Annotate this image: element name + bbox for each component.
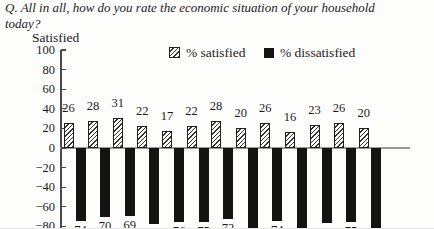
dissatisfied-bar xyxy=(100,148,110,217)
dissatisfied-value-label: 76 xyxy=(166,224,192,228)
dissatisfied-bar xyxy=(346,148,356,222)
chart-question-title: Q. All in all, how do you rate the econo… xyxy=(5,0,425,31)
satisfied-value-label: 22 xyxy=(179,104,205,118)
dissatisfied-bar xyxy=(248,148,258,228)
satisfied-bar xyxy=(88,121,98,148)
dissatisfied-value-label: 77 xyxy=(314,225,340,228)
satisfied-value-label: 28 xyxy=(80,99,106,113)
dissatisfied-bar xyxy=(297,148,307,228)
legend-dissatisfied-label: % dissatisfied xyxy=(280,45,355,61)
dissatisfied-bar xyxy=(76,148,86,221)
y-tick-label: 0 xyxy=(17,141,55,155)
dissatisfied-bar xyxy=(322,148,332,223)
satisfied-value-label: 26 xyxy=(326,101,352,115)
satisfied-bar xyxy=(187,126,197,148)
dissatisfied-value-label: 74 xyxy=(264,223,290,228)
satisfied-swatch-icon xyxy=(169,47,180,58)
legend-item-satisfied: % satisfied xyxy=(169,45,246,60)
dissatisfied-value-label: 70 xyxy=(92,219,118,228)
dissatisfied-value-label: 74 xyxy=(68,223,94,228)
satisfied-bar xyxy=(162,131,172,148)
satisfied-value-label: 31 xyxy=(105,96,131,110)
y-axis-tick xyxy=(61,167,66,168)
dissatisfied-value-label: 78 xyxy=(141,226,167,228)
y-tick-label: −60 xyxy=(17,200,55,214)
y-axis-tick xyxy=(61,69,66,70)
satisfied-bar xyxy=(260,123,270,148)
y-axis-tick xyxy=(61,89,66,90)
dissatisfied-bar xyxy=(223,148,233,219)
y-axis-tick xyxy=(61,226,66,227)
dissatisfied-value-label: 75 xyxy=(338,224,364,229)
y-axis-tick xyxy=(61,206,66,207)
y-tick-label: −80 xyxy=(17,219,55,228)
legend-item-dissatisfied: % dissatisfied xyxy=(264,45,355,60)
dissatisfied-value-label: 72 xyxy=(215,221,241,228)
satisfied-bar xyxy=(113,118,123,148)
satisfied-bar xyxy=(211,121,221,148)
satisfied-value-label: 26 xyxy=(56,101,82,115)
y-tick-label: 100 xyxy=(17,43,55,57)
y-tick-label: −40 xyxy=(17,180,55,194)
satisfied-value-label: 28 xyxy=(203,99,229,113)
y-axis-line xyxy=(60,50,62,228)
satisfied-value-label: 17 xyxy=(154,109,180,123)
satisfied-value-label: 22 xyxy=(129,104,155,118)
satisfied-bar xyxy=(137,126,147,148)
dissatisfied-bar xyxy=(149,148,159,224)
dissatisfied-bar xyxy=(371,148,381,228)
y-tick-label: −20 xyxy=(17,161,55,175)
dissatisfied-swatch-icon xyxy=(264,48,274,58)
satisfied-bar xyxy=(285,132,295,148)
y-tick-label: 80 xyxy=(17,63,55,77)
satisfied-bar xyxy=(64,123,74,148)
satisfied-bar xyxy=(359,128,369,148)
title-line-2: today? xyxy=(5,16,425,32)
dissatisfied-bar xyxy=(125,148,135,216)
y-tick-label: 60 xyxy=(17,82,55,96)
y-axis-tick xyxy=(61,49,66,50)
title-line-1: Q. All in all, how do you rate the econo… xyxy=(5,0,425,16)
y-axis-tick xyxy=(61,187,66,188)
y-tick-label: 40 xyxy=(17,102,55,116)
dissatisfied-bar xyxy=(272,148,282,221)
dissatisfied-value-label: 75 xyxy=(191,224,217,229)
satisfied-value-label: 26 xyxy=(252,101,278,115)
y-tick-label: 20 xyxy=(17,121,55,135)
satisfied-bar xyxy=(310,125,320,148)
satisfied-value-label: 23 xyxy=(302,103,328,117)
chart-figure: Q. All in all, how do you rate the econo… xyxy=(0,0,434,228)
dissatisfied-bar xyxy=(199,148,209,222)
dissatisfied-value-label: 69 xyxy=(117,218,143,228)
satisfied-bar xyxy=(334,123,344,148)
legend-satisfied-label: % satisfied xyxy=(186,45,246,61)
satisfied-value-label: 20 xyxy=(228,106,254,120)
dissatisfied-bar xyxy=(174,148,184,222)
satisfied-value-label: 20 xyxy=(351,106,377,120)
satisfied-value-label: 16 xyxy=(277,110,303,124)
satisfied-bar xyxy=(236,128,246,148)
